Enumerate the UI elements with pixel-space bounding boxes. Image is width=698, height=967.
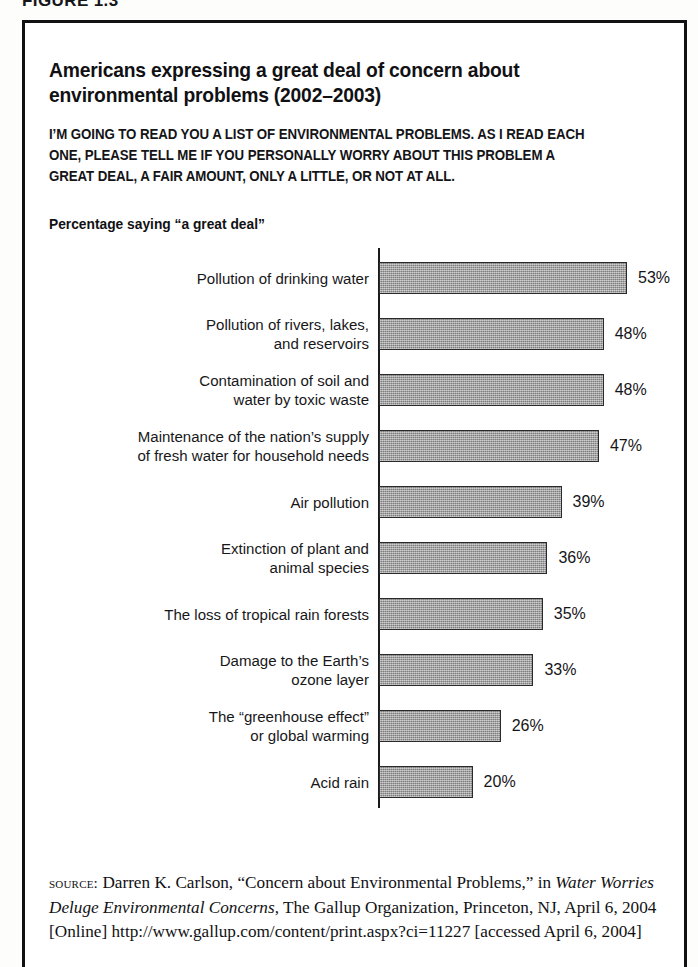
chart-subhead: Percentage saying “a great deal” — [49, 187, 629, 232]
bar-value-label: 47% — [610, 437, 642, 455]
bar-track: 48% — [379, 374, 647, 406]
bar-track: 47% — [379, 430, 642, 462]
bar-value-label: 53% — [638, 269, 670, 287]
bar-category-label: Contamination of soil and water by toxic… — [59, 371, 369, 409]
bar-row: Extinction of plant and animal species36… — [49, 530, 660, 586]
bar-track: 36% — [379, 542, 591, 574]
bar-value-label: 48% — [615, 381, 647, 399]
bar — [379, 430, 599, 462]
bar — [379, 262, 627, 294]
bar — [379, 598, 543, 630]
figure-frame: Americans expressing a great deal of con… — [22, 20, 687, 967]
bar-row: The loss of tropical rain forests35% — [49, 586, 660, 642]
bar-chart: Pollution of drinking water53%Pollution … — [49, 248, 660, 810]
bar-track: 33% — [379, 654, 576, 686]
bar-track: 20% — [379, 766, 516, 798]
figure-content: Americans expressing a great deal of con… — [25, 23, 684, 967]
bar-category-label: Extinction of plant and animal species — [59, 539, 369, 577]
bar-row: Damage to the Earth’s ozone layer33% — [49, 642, 660, 698]
bar-row: The “greenhouse effect” or global warmin… — [49, 698, 660, 754]
bar-category-label: The “greenhouse effect” or global warmin… — [59, 707, 369, 745]
bar — [379, 710, 501, 742]
source-kicker: source: — [49, 874, 98, 891]
bar-value-label: 26% — [512, 717, 544, 735]
bar-track: 48% — [379, 318, 647, 350]
bar — [379, 318, 604, 350]
bar-track: 35% — [379, 598, 586, 630]
page-title: Americans expressing a great deal of con… — [49, 23, 557, 107]
bar-category-label: Damage to the Earth’s ozone layer — [59, 651, 369, 689]
bar-track: 26% — [379, 710, 544, 742]
survey-question-text: I’M GOING TO READ YOU A LIST OF ENVIRONM… — [49, 107, 598, 187]
bar-category-label: Air pollution — [59, 493, 369, 512]
bar-value-label: 20% — [484, 773, 516, 791]
bar-row: Air pollution39% — [49, 474, 660, 530]
bar — [379, 542, 547, 574]
bar — [379, 486, 562, 518]
bar-category-label: The loss of tropical rain forests — [59, 605, 369, 624]
bar-row: Pollution of rivers, lakes, and reservoi… — [49, 306, 660, 362]
bar-value-label: 39% — [573, 493, 605, 511]
bar-category-label: Acid rain — [59, 773, 369, 792]
bar-category-label: Pollution of drinking water — [59, 269, 369, 288]
source-note: source: Darren K. Carlson, “Concern abou… — [49, 871, 664, 945]
bar-value-label: 35% — [554, 605, 586, 623]
bar-category-label: Pollution of rivers, lakes, and reservoi… — [59, 315, 369, 353]
figure-caption: FIGURE 1.3 — [22, 0, 119, 8]
bar-track: 39% — [379, 486, 605, 518]
bar — [379, 766, 473, 798]
bar-row: Pollution of drinking water53% — [49, 250, 660, 306]
bar-row: Acid rain20% — [49, 754, 660, 810]
bar — [379, 654, 533, 686]
bar-row: Contamination of soil and water by toxic… — [49, 362, 660, 418]
bar-value-label: 36% — [558, 549, 590, 567]
source-text-before-title: Darren K. Carlson, “Concern about Enviro… — [98, 873, 555, 892]
bar-track: 53% — [379, 262, 670, 294]
bar-value-label: 33% — [544, 661, 576, 679]
bar-category-label: Maintenance of the nation’s supply of fr… — [59, 427, 369, 465]
figure-page: FIGURE 1.3 Americans expressing a great … — [0, 0, 698, 967]
bar — [379, 374, 604, 406]
bar-value-label: 48% — [615, 325, 647, 343]
bar-row: Maintenance of the nation’s supply of fr… — [49, 418, 660, 474]
